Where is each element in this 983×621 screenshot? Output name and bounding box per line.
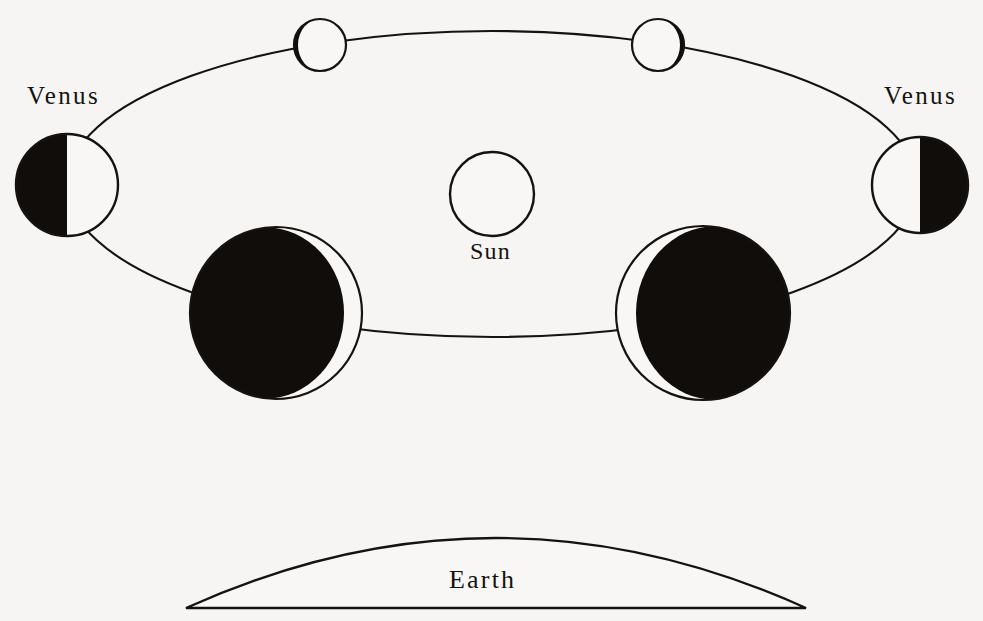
venus-phase-lower-right bbox=[616, 226, 796, 400]
label-venus-right: Venus bbox=[884, 82, 957, 109]
venus-phase-lower-left bbox=[184, 227, 362, 399]
sun-body bbox=[450, 152, 534, 236]
venus-far-right-dark-half bbox=[920, 132, 975, 238]
diagram-canvas: Venus Venus Sun Earth bbox=[0, 0, 983, 621]
venus-phase-far-left bbox=[10, 130, 118, 242]
venus-phase-top-right bbox=[632, 19, 684, 71]
venus-phases-diagram: Venus Venus Sun Earth bbox=[0, 0, 983, 621]
venus-phase-far-right bbox=[872, 132, 975, 238]
label-sun: Sun bbox=[470, 238, 511, 264]
venus-lower-left-dark-disc bbox=[184, 227, 344, 399]
venus-far-left-dark-half bbox=[10, 130, 67, 242]
label-earth: Earth bbox=[449, 565, 516, 594]
label-venus-left: Venus bbox=[27, 82, 100, 109]
venus-lower-right-dark-disc bbox=[636, 226, 796, 400]
venus-phase-top-left bbox=[294, 19, 346, 71]
